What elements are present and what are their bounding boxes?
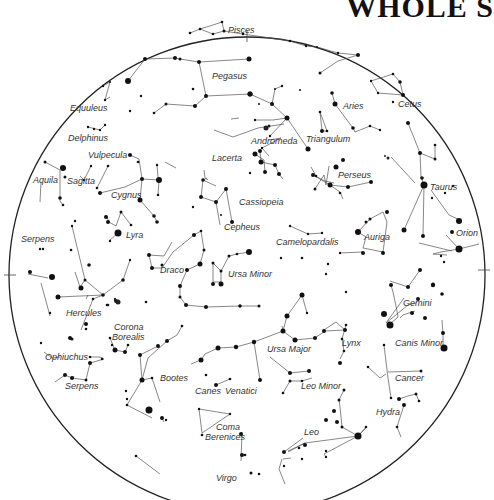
label-borealis: Borealis (112, 332, 145, 342)
label-aries: Aries (342, 101, 364, 111)
label-coma: Coma (216, 422, 240, 432)
label-aquila: Aquila (32, 175, 58, 185)
label-leo-minor: Leo Minor (301, 381, 342, 391)
label-orion: Orion (456, 228, 478, 238)
label-pegasus: Pegasus (212, 71, 248, 81)
label-triangulum: Triangulum (306, 134, 351, 144)
label-lacerta: Lacerta (212, 153, 242, 163)
label-bootes: Bootes (160, 373, 189, 383)
label-taurus: Taurus (430, 182, 458, 192)
label-berenices: Berenices (205, 432, 246, 442)
label-virgo: Virgo (216, 473, 237, 483)
label-camelopardalis: Camelopardalis (276, 237, 339, 247)
label-cassiopeia: Cassiopeia (239, 197, 284, 207)
label-draco: Draco (160, 265, 184, 275)
label-andromeda: Andromeda (250, 136, 298, 146)
label-canis-minor: Canis Minor (395, 338, 444, 348)
label-cancer: Cancer (395, 373, 425, 383)
label-cygnus: Cygnus (111, 190, 142, 200)
label-pisces: Pisces (228, 25, 255, 35)
label-vulpecula: Vulpecula (88, 150, 127, 160)
label-delphinus: Delphinus (68, 133, 109, 143)
label-hydra: Hydra (376, 407, 400, 417)
label-hercules: Hercules (66, 308, 102, 318)
label-cepheus: Cepheus (224, 222, 261, 232)
label-equuleus: Equuleus (70, 103, 108, 113)
label-serpens-left: Serpens (21, 234, 55, 244)
label-serpens-lower: Serpens (65, 381, 99, 391)
label-ursa-minor: Ursa Minor (228, 269, 273, 279)
label-sagitta: Sagitta (67, 176, 95, 186)
label-corona: Corona (114, 322, 144, 332)
label-ursa-major: Ursa Major (267, 344, 312, 354)
label-gemini: Gemini (403, 298, 433, 308)
label-ophiuchus: Ophiuchus (45, 352, 89, 362)
label-cetus: Cetus (398, 99, 422, 109)
label-canes: Canes (195, 386, 222, 396)
label-lyra: Lyra (126, 230, 143, 240)
label-venatici: Venatici (225, 386, 258, 396)
label-perseus: Perseus (338, 170, 372, 180)
label-auriga: Auriga (363, 232, 390, 242)
label-leo: Leo (304, 427, 319, 437)
label-lynx: Lynx (342, 338, 361, 348)
